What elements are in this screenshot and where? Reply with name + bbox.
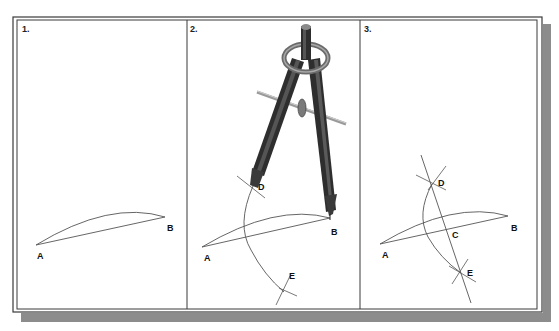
point-a-label: A	[382, 250, 389, 260]
bisection-diagram: 1. A B 2. A B D E	[0, 0, 559, 331]
point-e-label: E	[467, 268, 473, 278]
point-d-label: D	[438, 178, 445, 188]
point-a-label: A	[204, 253, 211, 263]
point-a-label: A	[37, 251, 44, 261]
point-b-label: B	[167, 223, 174, 233]
frame-shadow-bottom	[21, 313, 551, 322]
step-label-1: 1.	[22, 24, 30, 34]
point-c-label: C	[452, 230, 459, 240]
frame-shadow-right	[543, 24, 551, 322]
point-b-label: B	[511, 223, 518, 233]
step-label-3: 3.	[364, 24, 372, 34]
step-label-2: 2.	[190, 24, 198, 34]
point-e-label: E	[289, 271, 295, 281]
point-b-label: B	[331, 227, 338, 237]
